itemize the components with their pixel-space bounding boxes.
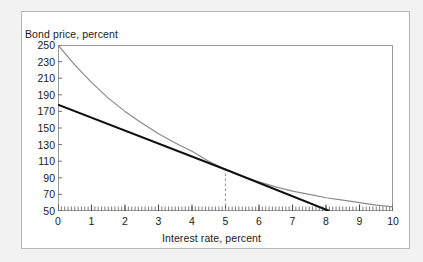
y-axis-tick-labels: 507090110130150170190210230250 (19, 45, 55, 211)
x-axis-tick-labels: 012345678910 (58, 215, 393, 229)
tangent-line (58, 105, 329, 211)
y-tick-label: 150 (21, 123, 55, 134)
x-tick-label: 5 (213, 215, 239, 227)
y-tick-label: 190 (21, 89, 55, 100)
x-axis-title: Interest rate, percent (0, 232, 423, 244)
y-tick-label: 210 (21, 73, 55, 84)
x-tick-label: 3 (146, 215, 172, 227)
y-tick-label: 170 (21, 106, 55, 117)
y-tick-label: 110 (21, 156, 55, 167)
bond-price-curve (58, 45, 393, 207)
x-tick-label: 7 (280, 215, 306, 227)
y-axis-major-ticks (58, 45, 62, 211)
y-tick-label: 90 (21, 172, 55, 183)
x-tick-label: 6 (246, 215, 272, 227)
x-tick-label: 1 (79, 215, 105, 227)
y-tick-label: 230 (21, 56, 55, 67)
y-tick-label: 70 (21, 189, 55, 200)
y-tick-label: 250 (21, 40, 55, 51)
y-tick-label: 130 (21, 139, 55, 150)
x-tick-label: 10 (380, 215, 406, 227)
x-tick-label: 8 (313, 215, 339, 227)
plot-panel (58, 45, 393, 211)
x-tick-label: 9 (347, 215, 373, 227)
x-tick-label: 4 (179, 215, 205, 227)
x-tick-label: 2 (112, 215, 138, 227)
series-layer (58, 45, 393, 211)
plot-svg (58, 45, 393, 211)
x-tick-label: 0 (45, 215, 71, 227)
